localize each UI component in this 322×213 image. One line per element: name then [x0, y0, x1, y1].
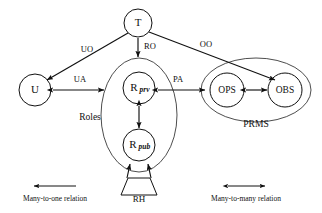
node-trust-label: T — [135, 16, 142, 28]
node-rpub-label: R — [129, 138, 137, 150]
roles-group-label: Roles — [79, 112, 101, 122]
node-rpub-subscript: pub — [138, 142, 151, 151]
node-rprv-subscript: prv — [139, 85, 151, 94]
edge-label-oo: OO — [200, 39, 212, 49]
edge-trust-to-user-uo — [47, 33, 128, 80]
rbac-relationship-diagram: T U R prv R pub OPS OBS Roles PRMS RH UO… — [0, 0, 322, 213]
node-rprv-label: R — [130, 81, 138, 93]
edge-label-ro: RO — [144, 41, 156, 51]
node-ops-label: OPS — [218, 85, 235, 95]
node-user-label: U — [31, 83, 39, 95]
edge-label-uo: UO — [81, 44, 93, 54]
legend-many-to-many-label: Many-to-many relation — [211, 194, 281, 203]
rh-trapezoid — [121, 178, 157, 195]
prms-group-label: PRMS — [243, 119, 268, 129]
edge-label-ua: UA — [74, 74, 87, 84]
rh-label: RH — [133, 194, 146, 204]
edge-label-pa: PA — [173, 74, 184, 84]
node-obs-label: OBS — [276, 85, 294, 95]
legend-many-to-one-label: Many-to-one relation — [23, 194, 87, 203]
edge-rh-to-rpub-right — [148, 164, 151, 178]
diagram-canvas: T U R prv R pub OPS OBS Roles PRMS RH UO… — [0, 0, 322, 213]
edge-rh-to-rpub-left — [127, 164, 130, 178]
